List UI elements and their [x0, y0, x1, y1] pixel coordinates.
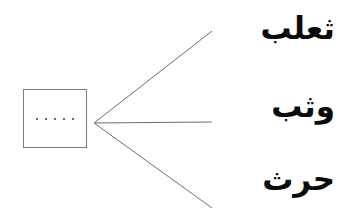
word-choice-wathaba[interactable]: وثب	[236, 90, 335, 123]
placeholder-dot	[63, 118, 65, 120]
placeholder-dot	[45, 118, 47, 120]
placeholder-dot	[72, 118, 74, 120]
placeholder-dot	[54, 118, 56, 120]
connector-line-bottom[interactable]	[94, 123, 212, 208]
connector-line-middle[interactable]	[94, 122, 212, 123]
blank-answer-box[interactable]	[23, 89, 87, 148]
connector-line-top[interactable]	[94, 31, 212, 123]
worksheet-page: ثعلب وثب حرث	[0, 0, 341, 217]
placeholder-dots	[24, 118, 86, 120]
word-choice-thalab[interactable]: ثعلب	[236, 12, 335, 45]
word-choice-haratha[interactable]: حرث	[236, 163, 335, 196]
word-choice-list: ثعلب وثب حرث	[236, 0, 341, 217]
placeholder-dot	[36, 118, 38, 120]
